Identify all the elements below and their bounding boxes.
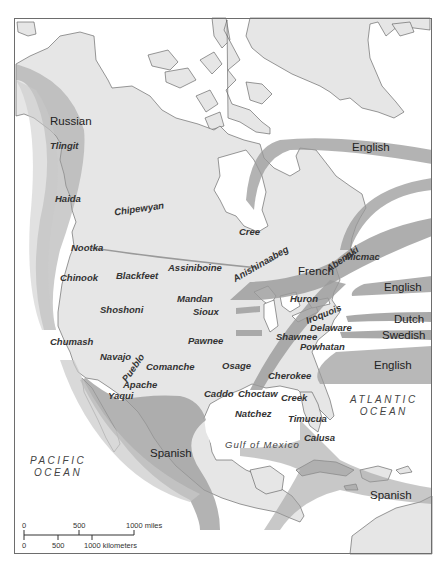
label-tribe-chumash: Chumash	[50, 337, 93, 347]
scale-km-500: 500	[52, 542, 65, 550]
label-tribe-nootka: Nootka	[71, 243, 103, 253]
scale-km-0: 0	[22, 542, 26, 550]
label-tribe-assiniboine: Assiniboine	[168, 263, 222, 273]
atlantic-line1: ATLANTIC	[350, 394, 418, 406]
label-tribe-cree: Cree	[239, 227, 260, 237]
label-english-south: English	[374, 360, 412, 372]
label-tribe-navajo: Navajo	[100, 352, 131, 362]
label-tribe-yaqui: Yaqui	[108, 391, 134, 401]
label-tribe-caddo: Caddo	[204, 389, 234, 399]
label-tribe-powhatan: Powhatan	[300, 342, 345, 352]
label-tribe-tlingit: Tlingit	[50, 141, 79, 151]
label-russian: Russian	[50, 116, 92, 128]
label-tribe-sioux: Sioux	[193, 307, 219, 317]
label-tribe-cherokee: Cherokee	[268, 371, 311, 381]
label-english-north: English	[352, 142, 390, 154]
atlantic-line2: OCEAN	[350, 406, 418, 418]
label-spanish-caribbean: Spanish	[370, 490, 412, 502]
scale-miles-1000: 1000 miles	[126, 522, 162, 530]
label-tribe-chinook: Chinook	[60, 273, 98, 283]
pacific-line1: PACIFIC	[30, 455, 86, 467]
label-tribe-pawnee: Pawnee	[188, 336, 223, 346]
label-spanish-west: Spanish	[150, 448, 192, 460]
label-tribe-mandan: Mandan	[177, 294, 213, 304]
scale-miles-500: 500	[73, 522, 86, 530]
label-tribe-shoshoni: Shoshoni	[100, 305, 143, 315]
scale-km-1000: 1000 kilometers	[84, 542, 137, 550]
label-english-mid: English	[384, 282, 422, 294]
label-tribe-calusa: Calusa	[304, 433, 335, 443]
scale-bar: 0 500 1000 miles 0 500 1000 kilometers	[22, 522, 142, 552]
label-tribe-timucua: Timucua	[288, 414, 327, 424]
label-dutch: Dutch	[394, 314, 424, 326]
label-tribe-creek: Creek	[281, 393, 307, 403]
label-tribe-comanche: Comanche	[146, 362, 195, 372]
pacific-line2: OCEAN	[30, 467, 86, 479]
label-tribe-osage: Osage	[222, 361, 251, 371]
scale-miles-0: 0	[22, 522, 26, 530]
label-tribe-choctaw: Choctaw	[238, 389, 278, 399]
label-tribe-haida: Haida	[55, 194, 81, 204]
label-tribe-apache: Apache	[123, 380, 157, 390]
label-swedish: Swedish	[382, 330, 425, 342]
label-tribe-blackfeet: Blackfeet	[116, 271, 158, 281]
label-pacific-ocean: PACIFIC OCEAN	[30, 455, 86, 478]
label-gulf-of-mexico: Gulf of Mexico	[225, 440, 300, 450]
label-tribe-huron: Huron	[290, 294, 318, 304]
colonial-map: Russian English French English Dutch Swe…	[0, 0, 448, 568]
label-tribe-natchez: Natchez	[235, 409, 271, 419]
label-atlantic-ocean: ATLANTIC OCEAN	[350, 394, 418, 417]
